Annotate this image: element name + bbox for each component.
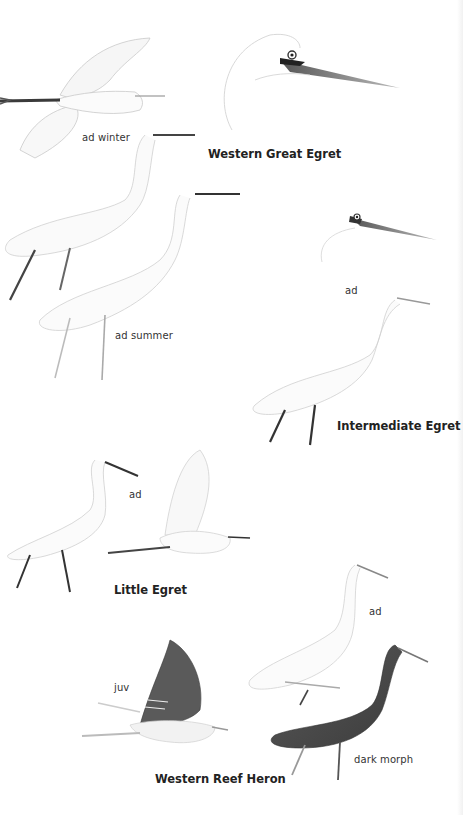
reef-heron-white-morph [249, 565, 388, 689]
label-reef-heron-dark-morph: dark morph [354, 754, 413, 765]
species-title-western-reef-heron: Western Reef Heron [155, 772, 286, 786]
intermediate-egret-head [321, 214, 437, 262]
label-reef-heron-ad: ad [369, 606, 382, 617]
label-great-egret-ad-summer: ad summer [115, 330, 173, 341]
great-egret-standing-illustration [5, 135, 240, 380]
little-egret-flying [108, 450, 250, 553]
label-intermediate-egret-ad: ad [345, 285, 358, 296]
label-great-egret-ad-winter: ad winter [82, 132, 130, 143]
little-egret-standing [8, 460, 138, 592]
field-guide-plate: ad winter Western Great Egret ad summer … [0, 0, 463, 815]
species-title-western-great-egret: Western Great Egret [208, 147, 341, 161]
label-little-egret-ad: ad [129, 489, 142, 500]
bird-illustrations [0, 0, 463, 815]
species-title-little-egret: Little Egret [114, 583, 187, 597]
reef-heron-juv-flying [82, 640, 228, 743]
label-reef-heron-juv: juv [114, 682, 129, 693]
page-edge-shadow [457, 0, 463, 815]
great-egret-head-closeup [224, 34, 400, 130]
species-title-intermediate-egret: Intermediate Egret [337, 419, 461, 433]
